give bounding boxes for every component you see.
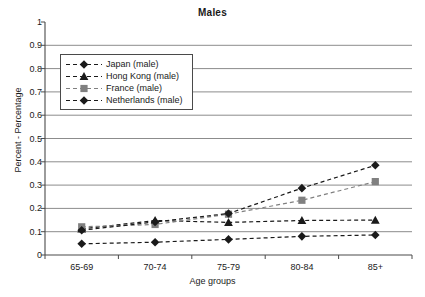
legend-item: Hong Kong (male)	[65, 70, 189, 82]
data-point-marker	[80, 60, 89, 69]
chart-container: Males Percent - Percentage 00.10.20.30.4…	[0, 0, 425, 297]
legend-item: France (male)	[65, 82, 189, 94]
data-point-marker	[298, 232, 307, 241]
legend-label: Netherlands (male)	[106, 95, 183, 106]
data-point-marker	[298, 197, 305, 204]
data-point-marker	[224, 235, 233, 244]
legend-label: Japan (male)	[106, 59, 159, 70]
legend-marker-diamond-icon	[65, 95, 103, 106]
data-point-marker	[371, 216, 380, 224]
data-point-marker	[77, 240, 86, 249]
legend-label: France (male)	[106, 83, 162, 94]
chart-legend: Japan (male)Hong Kong (male)France (male…	[60, 54, 193, 110]
legend-item: Japan (male)	[65, 58, 189, 70]
legend-marker-diamond-icon	[65, 59, 103, 70]
legend-marker-square-icon	[65, 83, 103, 94]
data-point-marker	[372, 178, 379, 185]
data-point-marker	[80, 84, 87, 91]
data-point-marker	[151, 238, 160, 247]
data-point-marker	[80, 96, 89, 105]
legend-item: Netherlands (male)	[65, 94, 189, 106]
x-axis-title: Age groups	[0, 276, 425, 286]
plot-area	[0, 0, 425, 297]
legend-label: Hong Kong (male)	[106, 71, 179, 82]
legend-marker-triangle-icon	[65, 71, 103, 82]
